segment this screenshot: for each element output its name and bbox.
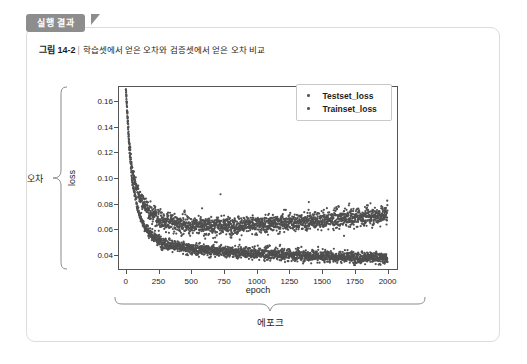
figure-caption: 그림 14-2|학습셋에서 얻은 오차와 검증셋에서 얻은 오차 비교 xyxy=(39,43,265,56)
x-tick-label: 500 xyxy=(185,277,198,286)
caption-separator: | xyxy=(78,45,80,55)
x-tick-label: 1500 xyxy=(313,277,331,286)
legend-label: Trainset_loss xyxy=(323,104,377,114)
x-tick-label: 250 xyxy=(152,277,165,286)
legend-item-testset: Testset_loss xyxy=(297,89,391,102)
legend-marker-icon xyxy=(307,107,310,110)
y-tick-label: 0.08 xyxy=(97,199,113,208)
y-tick-mark xyxy=(114,204,118,205)
x-axis-annotation-brace xyxy=(114,296,426,312)
y-tick-mark xyxy=(114,152,118,153)
y-tick-mark xyxy=(114,178,118,179)
badge-tail-icon xyxy=(91,14,100,25)
x-tick-label: 2000 xyxy=(379,277,397,286)
legend-label: Testset_loss xyxy=(323,91,374,101)
x-axis-tick-labels: 025050075010001250150017502000 xyxy=(118,272,398,286)
x-tick-label: 1250 xyxy=(280,277,298,286)
y-axis-label: loss xyxy=(67,170,77,186)
x-tick-label: 1750 xyxy=(346,277,364,286)
x-axis-label: epoch xyxy=(246,285,271,295)
y-tick-label: 0.06 xyxy=(97,225,113,234)
chart-legend: Testset_loss Trainset_loss xyxy=(296,84,392,121)
y-tick-label: 0.04 xyxy=(97,250,113,259)
x-tick-label: 0 xyxy=(124,277,128,286)
figure-number: 그림 14-2 xyxy=(39,45,76,55)
x-axis-annotation-label: 에포크 xyxy=(257,315,284,329)
y-axis-annotation-brace xyxy=(52,86,68,270)
y-axis-annotation-label: 오차 xyxy=(27,172,43,185)
legend-item-trainset: Trainset_loss xyxy=(297,102,391,115)
y-tick-label: 0.14 xyxy=(97,122,113,131)
figure-caption-text: 학습셋에서 얻은 오차와 검증셋에서 얻은 오차 비교 xyxy=(83,45,265,55)
y-tick-mark xyxy=(114,255,118,256)
y-tick-mark xyxy=(114,229,118,230)
y-axis-tick-labels: 0.040.060.080.100.120.140.16 xyxy=(88,86,113,270)
y-tick-label: 0.12 xyxy=(97,148,113,157)
x-tick-label: 750 xyxy=(217,277,230,286)
status-badge: 실행 결과 xyxy=(26,14,85,32)
y-tick-mark xyxy=(114,101,118,102)
legend-marker-icon xyxy=(307,94,310,97)
y-tick-label: 0.16 xyxy=(97,97,113,106)
y-tick-label: 0.10 xyxy=(97,174,113,183)
y-tick-mark xyxy=(114,127,118,128)
